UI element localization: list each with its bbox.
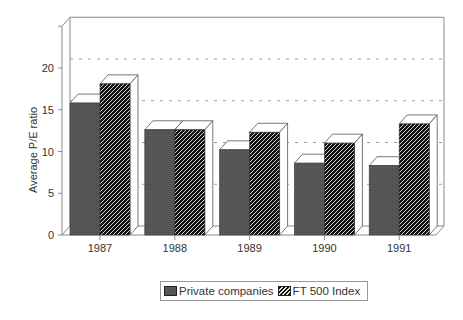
x-tick-label: 1989 <box>237 242 261 254</box>
y-tick-label: 10 <box>42 146 54 158</box>
x-tick-label: 1988 <box>163 242 187 254</box>
legend-label: Private companies <box>179 285 274 297</box>
bar-ft-500-index-1987 <box>100 75 138 235</box>
bar-ft-500-index-1989 <box>250 123 288 235</box>
bar-ft-500-index-1991 <box>399 115 437 235</box>
y-tick-label: 0 <box>48 229 54 241</box>
legend-label: FT 500 Index <box>293 285 361 297</box>
y-axis-label: Average P/E ratio <box>27 107 39 193</box>
y-tick-label: 20 <box>42 62 54 74</box>
bars <box>70 75 437 235</box>
y-axis: 05101520 <box>42 26 62 241</box>
legend-item-private: Private companies <box>164 285 274 297</box>
x-tick-label: 1991 <box>387 242 411 254</box>
bar-ft-500-index-1990 <box>324 134 362 235</box>
bar-chart: 05101520 19871988198919901991 Average P/… <box>0 0 463 320</box>
legend-swatch-private <box>164 286 177 296</box>
legend-item-ft500: FT 500 Index <box>278 285 361 297</box>
x-tick-label: 1990 <box>312 242 336 254</box>
legend: Private companies FT 500 Index <box>160 281 368 301</box>
x-tick-label: 1987 <box>88 242 112 254</box>
legend-swatch-ft500 <box>278 286 291 296</box>
x-axis: 19871988198919901991 <box>88 235 412 254</box>
y-tick-label: 5 <box>48 187 54 199</box>
bar-ft-500-index-1988 <box>175 121 213 235</box>
y-tick-label: 15 <box>42 104 54 116</box>
